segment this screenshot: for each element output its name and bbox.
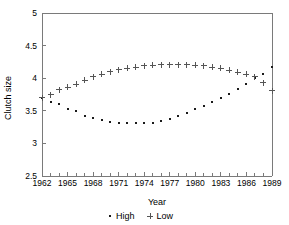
data-point (160, 120, 162, 122)
data-point (124, 65, 130, 71)
y-tick-label: 3 (32, 138, 37, 148)
plot-frame (42, 13, 272, 176)
x-axis: 1962196519681971197419771980198319861989 (33, 172, 282, 188)
data-point (226, 67, 232, 73)
data-point (184, 62, 190, 68)
data-point (203, 105, 205, 107)
y-tick-label: 4 (32, 73, 37, 83)
data-point (126, 122, 128, 124)
data-point (50, 101, 52, 103)
data-point (201, 63, 207, 69)
chart-canvas: 2.533.544.55 196219651968197119741977198… (0, 0, 289, 225)
data-point (65, 84, 71, 90)
y-tick-label: 3.5 (25, 106, 37, 116)
data-point (167, 62, 173, 68)
data-point (92, 117, 94, 119)
data-point (218, 65, 224, 71)
x-tick-label: 1983 (211, 178, 230, 188)
x-tick-label: 1968 (84, 178, 103, 188)
data-point (211, 101, 213, 103)
x-tick-label: 1965 (58, 178, 77, 188)
y-axis-title: Clutch size (3, 76, 13, 120)
data-point (58, 103, 60, 105)
legend-label-high: High (116, 211, 135, 221)
data-point (150, 62, 156, 68)
data-point (75, 110, 77, 112)
data-point (262, 73, 264, 75)
data-point (235, 69, 241, 75)
data-point (237, 88, 239, 90)
data-point (169, 118, 171, 120)
data-point (73, 81, 79, 87)
x-tick-label: 1986 (237, 178, 256, 188)
chart-legend: HighLow (109, 211, 173, 221)
data-point (133, 64, 139, 70)
legend-marker-low (147, 213, 153, 219)
data-point (269, 88, 275, 94)
data-point (99, 71, 105, 77)
series-low (39, 62, 275, 101)
data-point (177, 115, 179, 117)
data-point (141, 63, 147, 69)
data-point (135, 122, 137, 124)
data-point (116, 67, 122, 73)
legend-marker-high (109, 215, 111, 217)
data-point (245, 83, 247, 85)
data-point (143, 122, 145, 124)
data-point (209, 64, 215, 70)
data-point (158, 62, 164, 68)
data-point (67, 108, 69, 110)
data-point (118, 122, 120, 124)
x-tick-label: 1974 (135, 178, 154, 188)
data-point (220, 97, 222, 99)
data-point (90, 74, 96, 80)
x-tick-label: 1980 (186, 178, 205, 188)
data-point (39, 95, 45, 101)
data-point (109, 121, 111, 123)
data-point (82, 77, 88, 83)
y-tick-label: 4.5 (25, 41, 37, 51)
x-tick-label: 1977 (160, 178, 179, 188)
y-axis: 2.533.544.55 (25, 8, 46, 181)
x-tick-label: 1971 (109, 178, 128, 188)
y-tick-label: 5 (32, 8, 37, 18)
data-point (271, 66, 273, 68)
data-point (194, 108, 196, 110)
data-point (56, 87, 62, 93)
data-point (186, 112, 188, 114)
data-point (107, 69, 113, 75)
data-point (228, 93, 230, 95)
data-point (192, 62, 198, 68)
data-point (175, 62, 181, 68)
data-point (252, 74, 258, 80)
data-point (48, 92, 54, 98)
data-point (243, 71, 249, 77)
data-point (152, 122, 154, 124)
data-point (260, 80, 266, 86)
data-series-layer (39, 62, 275, 125)
data-point (101, 119, 103, 121)
x-tick-label: 1989 (263, 178, 282, 188)
clutch-size-chart: 2.533.544.55 196219651968197119741977198… (0, 0, 289, 225)
x-tick-label: 1962 (33, 178, 52, 188)
legend-label-low: Low (156, 211, 173, 221)
data-point (84, 115, 86, 117)
x-axis-title: Year (148, 197, 166, 207)
